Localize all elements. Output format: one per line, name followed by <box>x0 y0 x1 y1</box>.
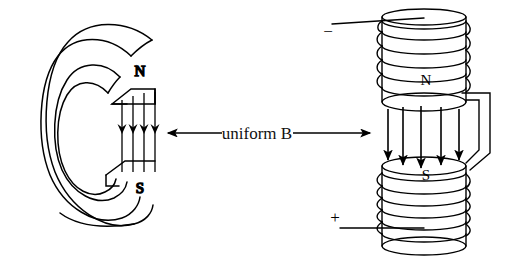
coil-turn <box>382 186 466 194</box>
toroid-south-pole-left-edge <box>106 175 119 186</box>
coil-hook <box>377 186 382 198</box>
toroid-south-label: S <box>136 180 144 196</box>
solenoid-group <box>332 9 490 255</box>
positive-terminal-label: + <box>330 208 340 227</box>
coil-turn <box>382 88 466 96</box>
coil-hook <box>377 74 382 88</box>
uniform-b-label: uniform B <box>222 124 292 143</box>
toroid-outer-top-band <box>131 40 152 56</box>
coil-hook <box>377 46 382 60</box>
coil-hook <box>377 60 382 74</box>
negative-terminal-label: − <box>323 22 333 41</box>
coil-turn <box>382 46 466 54</box>
toroid-outer-front-edge <box>41 40 140 221</box>
solenoid-upper-top-ellipse <box>382 9 466 25</box>
toroid-inner-top-band <box>108 77 120 93</box>
coil-turn <box>382 234 466 242</box>
diagram-svg: N S uniform B <box>0 0 512 263</box>
coil-hook <box>377 210 382 222</box>
toroid-north-label: N <box>135 63 146 79</box>
coil-hook <box>377 32 382 46</box>
coil-hook <box>377 198 382 210</box>
toroid-magnet-group: N S <box>41 24 155 226</box>
solenoid-bypass-wire <box>462 93 490 170</box>
solenoid-bypass-wire-inner <box>466 100 479 163</box>
uniform-b-annotation: uniform B <box>168 124 370 143</box>
coil-turn <box>382 222 466 230</box>
physics-diagram-canvas: N S uniform B <box>0 0 512 263</box>
solenoid-north-label: N <box>421 72 432 88</box>
coil-turn <box>382 210 466 218</box>
coil-turn <box>382 32 466 40</box>
solenoid-south-label: S <box>422 167 430 183</box>
solenoid-lower-coil-turns <box>377 173 470 242</box>
coil-hook <box>377 173 382 186</box>
solenoid-negative-lead-wire <box>332 18 424 24</box>
coil-turn <box>382 198 466 206</box>
toroid-south-pole-face <box>106 161 155 175</box>
coil-turn <box>382 60 466 68</box>
